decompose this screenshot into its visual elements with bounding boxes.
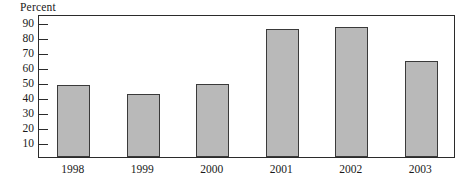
x-axis-label: 1999 (102, 162, 182, 176)
y-axis-title: Percent (20, 1, 56, 14)
y-axis-tick-mark (39, 39, 48, 40)
y-axis-tick-mark (39, 129, 48, 130)
y-axis-tick-mark (39, 24, 48, 25)
x-axis-label: 2003 (380, 162, 460, 176)
bar (196, 84, 229, 157)
y-axis-tick-label: 50 (23, 76, 35, 90)
bar (266, 29, 299, 157)
y-axis-tick-mark (39, 144, 48, 145)
y-axis-tick-label: 60 (23, 61, 35, 75)
bar (127, 94, 160, 157)
bar (335, 27, 368, 157)
y-axis-tick-mark (39, 84, 48, 85)
y-axis-tick-label: 70 (23, 46, 35, 60)
x-axis-label: 2001 (241, 162, 321, 176)
y-axis-tick-label: 30 (23, 106, 35, 120)
y-axis-tick-label: 20 (23, 121, 35, 135)
y-axis-tick-mark (39, 54, 48, 55)
plot-frame: 102030405060708090 (38, 15, 455, 158)
y-axis-tick-label: 80 (23, 31, 35, 45)
bar-chart: Percent 102030405060708090 1998199920002… (0, 0, 473, 195)
y-axis-tick-label: 90 (23, 16, 35, 30)
y-axis-tick-mark (39, 99, 48, 100)
y-axis-tick-mark (39, 114, 48, 115)
bar (57, 85, 90, 157)
x-axis-label: 2002 (311, 162, 391, 176)
x-axis-label: 1998 (33, 162, 113, 176)
y-axis-tick-label: 10 (23, 136, 35, 150)
y-axis-tick-label: 40 (23, 91, 35, 105)
plot-area: 102030405060708090 (39, 16, 454, 157)
y-axis-tick-mark (39, 69, 48, 70)
x-axis-label: 2000 (172, 162, 252, 176)
bar (405, 61, 438, 157)
